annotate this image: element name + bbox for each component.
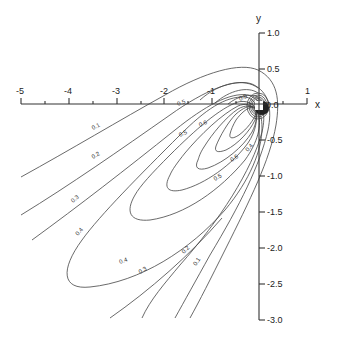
y-tick-label: -1.0 xyxy=(267,171,283,181)
y-axis-title: y xyxy=(256,13,261,24)
contour-label: 0.5 xyxy=(213,172,224,182)
x-tick-labels: -5 -4 -3 -2 -1 1 xyxy=(16,86,310,96)
contour-0.5 xyxy=(130,101,259,220)
contour-label: 0.6 xyxy=(198,119,209,128)
contour-label: 0.5 xyxy=(178,129,189,138)
contour-label: 0.3 xyxy=(138,265,149,275)
contour-label: 0.2 xyxy=(91,150,102,160)
contour-label: 0.3 xyxy=(70,193,81,203)
contour-label: 0.4 xyxy=(244,142,254,153)
contour-label: 0.4 xyxy=(118,256,129,265)
contour-label: 0.4 xyxy=(74,226,84,237)
contour-0.3 xyxy=(32,95,264,318)
contour-0.1 xyxy=(21,67,278,318)
contour-label: 0.5 xyxy=(238,93,249,102)
y-tick-label: -2.5 xyxy=(267,279,283,289)
x-tick-label: -4 xyxy=(64,86,72,96)
contour-label: 0.2 xyxy=(180,244,191,255)
contour-label: 0.5 xyxy=(176,98,187,107)
contour-lines xyxy=(21,67,278,318)
x-tick-label: -1 xyxy=(207,86,215,96)
origin-label: 0.0 xyxy=(266,100,279,110)
x-tick-label: -2 xyxy=(160,86,168,96)
contour-0.4-tail xyxy=(110,218,222,318)
y-tick-label: -2.0 xyxy=(267,243,283,253)
x-axis-title: x xyxy=(315,99,320,110)
contour-plot: -5 -4 -3 -2 -1 1 x y 1.0 0.5 -0.5 -1.0 -… xyxy=(0,0,337,341)
y-tick-label: -1.5 xyxy=(267,207,283,217)
y-tick-label: 1.0 xyxy=(267,28,280,38)
y-tick-labels: 1.0 0.5 -0.5 -1.0 -1.5 -2.0 -2.5 -3.0 xyxy=(267,28,283,325)
contour-0.7 xyxy=(196,106,256,169)
contour-label: 0.1 xyxy=(192,256,202,267)
x-tick-label: 1 xyxy=(305,86,310,96)
y-tick-label: -3.0 xyxy=(267,315,283,325)
y-tick-label: -0.5 xyxy=(267,135,283,145)
x-tick-label: -3 xyxy=(112,86,120,96)
axes xyxy=(21,33,307,320)
y-tick-label: 0.5 xyxy=(267,64,280,74)
contour-label: 0.1 xyxy=(91,121,102,131)
x-tick-label: -5 xyxy=(16,86,24,96)
